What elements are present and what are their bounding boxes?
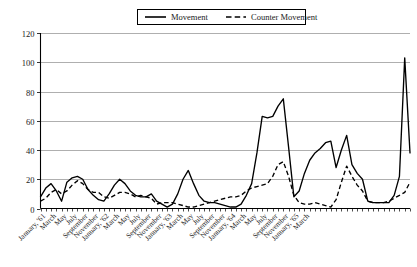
- y-tick-label: 60: [26, 117, 35, 127]
- y-tick-label: 120: [22, 29, 35, 39]
- legend-label-movement: Movement: [171, 12, 208, 22]
- y-tick-label: 20: [26, 175, 35, 185]
- y-tick-label: 80: [26, 88, 35, 98]
- chart-legend: Movement Counter Movement: [138, 10, 318, 25]
- y-tick-label: 40: [26, 146, 35, 156]
- y-tick-label: 0: [30, 205, 34, 215]
- y-tick-label: 100: [22, 58, 35, 68]
- chart-container: 020406080100120 January, '61MarchMayJuly…: [0, 0, 417, 267]
- legend-label-counter-movement: Counter Movement: [251, 12, 318, 22]
- line-chart: 020406080100120 January, '61MarchMayJuly…: [0, 0, 417, 267]
